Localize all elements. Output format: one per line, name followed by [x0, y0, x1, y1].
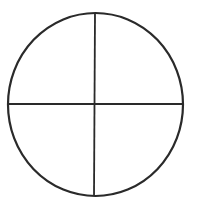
quadrant-circle-diagram [0, 0, 201, 211]
diagram-canvas [0, 0, 201, 211]
